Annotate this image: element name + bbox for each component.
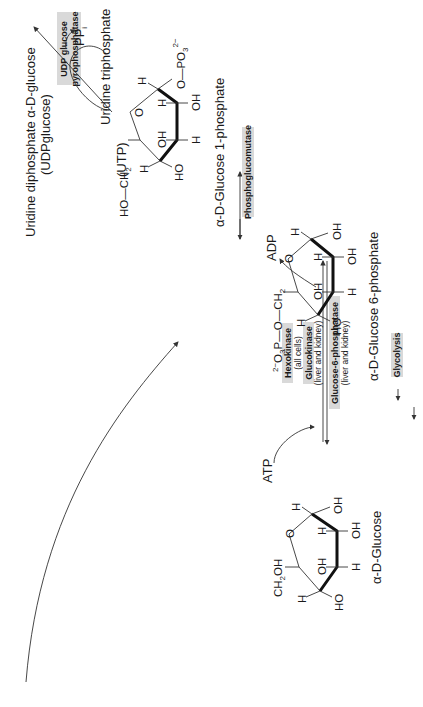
g6p-c2-h: H: [312, 253, 324, 261]
g6p-c4-ho: HO: [331, 318, 343, 335]
g1p-label: α-D-Glucose 1-phosphate: [212, 78, 227, 227]
g1p-c3-h: H: [190, 136, 202, 144]
g1p-c4-h: H: [138, 165, 150, 173]
ppi-label: PPi: [72, 27, 89, 46]
curved-arrow-to-g1p: [26, 342, 178, 682]
g6p-c1-h: H: [289, 228, 301, 236]
g1p-structure: HO—CH2 O H O—PO32− H OH OH H H HO: [118, 38, 202, 217]
c4-ho: HO: [333, 594, 345, 611]
g1p-c2-h: H: [156, 99, 168, 107]
g6p-c3-h: H: [346, 288, 358, 296]
g6p-ring-oxygen: O: [283, 254, 295, 263]
glucokinase-note: (liver and kidney): [313, 320, 323, 385]
utp-abbr: (UTP): [114, 142, 129, 177]
pathway-diagram: CH2OH O H OH H OH OH H H HO α-D-Glucose …: [0, 0, 423, 707]
utp-label: Uridine triphosphate: [98, 9, 113, 125]
g6p-c2-oh: OH: [346, 248, 358, 265]
g1p-c3-oh: OH: [156, 131, 168, 148]
udpg-label: Uridine diphosphate α-D-glucose: [23, 47, 38, 237]
c4-h: H: [296, 595, 308, 603]
c1-h: H: [290, 503, 302, 511]
g1p-opo3: O—PO32−: [171, 38, 190, 89]
g6p-label: α-D-Glucose 6-phosphate: [366, 232, 381, 381]
g1p-ring-oxygen: O: [133, 108, 145, 117]
kinase-enzymes: Hexokinase (all cells) Glucokinase (live…: [282, 320, 323, 385]
g1p-c2-oh: OH: [190, 94, 202, 111]
udpg-sublabel: (UDPglucose): [38, 94, 53, 175]
glycolysis-label: Glycolysis: [392, 332, 402, 377]
glucose-ch2oh: CH2OH: [272, 559, 287, 597]
glucose-label: α-D-Glucose: [369, 511, 384, 584]
atp-label: ATP: [260, 459, 275, 483]
c2-oh: OH: [350, 522, 362, 539]
c3-h: H: [350, 563, 362, 571]
c3-oh: OH: [316, 558, 328, 575]
g1p-c1-h: H: [136, 77, 148, 85]
adp-label: ADP: [264, 234, 279, 261]
udpgpp-label-line1: UDP glucose: [59, 21, 69, 76]
hexokinase-note: (all cells): [293, 336, 303, 370]
g6pase-label: Glucose-6-phosphatase: [330, 302, 340, 404]
ring-oxygen: O: [284, 529, 296, 538]
g6p-c3-oh: OH: [312, 283, 324, 300]
pgm-label: Phosphoglucomutase: [243, 125, 253, 219]
g1p-c4-ho: HO: [173, 164, 185, 181]
g6p-c1-oh: OH: [331, 223, 343, 240]
g6p-c4-h: H: [295, 319, 307, 327]
c2-h: H: [316, 527, 328, 535]
glucose-structure: CH2OH O H OH H OH OH H H HO: [272, 497, 362, 611]
g6pase-enzyme: Glucose-6-phosphatase (liver and kidney): [329, 296, 350, 409]
atp-arrow: [274, 427, 314, 463]
c1-oh: OH: [332, 497, 344, 514]
